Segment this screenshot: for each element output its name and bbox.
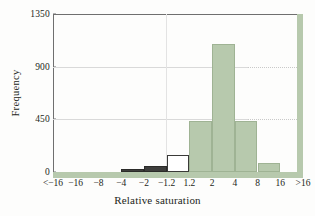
right-edge-band <box>297 14 303 178</box>
x-axis-ticks: <−16 −16 −8 −4 −2 −1.2 1.2 2 4 8 16 >16 <box>53 178 303 192</box>
x-tick-label-1p2: 1.2 <box>183 178 195 188</box>
x-axis-label: Relative saturation <box>0 194 315 206</box>
x-tick-label-16: 16 <box>276 178 286 188</box>
y-tick-label-1350: 1350 <box>30 9 50 19</box>
bar-series <box>53 14 303 172</box>
bar-bin-9 <box>235 121 258 172</box>
x-tick-label-minus4: −4 <box>116 178 126 188</box>
x-tick-label-minus2: −2 <box>139 178 149 188</box>
x-tick-label-minus16: −16 <box>68 178 83 188</box>
histogram-figure: Frequency 1350 900 450 0 <box>0 0 315 216</box>
bar-bin-6 <box>167 155 190 173</box>
x-tick-label-gt16: >16 <box>296 178 311 188</box>
bar-bin-8 <box>212 44 235 173</box>
bar-bin-7 <box>189 121 212 172</box>
y-axis-ticks: 1350 900 450 0 <box>0 14 50 172</box>
x-tick-label-minus8: −8 <box>93 178 103 188</box>
x-tick-label-lt-minus16: <−16 <box>43 178 63 188</box>
y-tick-label-450: 450 <box>35 114 50 124</box>
y-tick-label-0: 0 <box>45 167 50 177</box>
x-tick-label-2: 2 <box>210 178 215 188</box>
plot-area <box>53 14 303 172</box>
y-tick-label-900: 900 <box>35 62 50 72</box>
x-tick-label-8: 8 <box>255 178 260 188</box>
x-tick-label-4: 4 <box>232 178 237 188</box>
bar-bin-10 <box>258 163 281 172</box>
x-tick-label-minus1p2: −1.2 <box>158 178 175 188</box>
